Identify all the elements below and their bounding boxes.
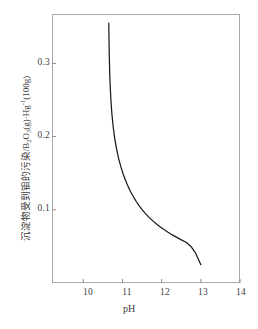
y-axis-title-b-sub: 2 bbox=[25, 139, 32, 142]
y-axis-title-o-sub: 3 bbox=[25, 130, 32, 133]
y-axis-title-cjk: 沉淀物受到钼的污染 bbox=[20, 151, 31, 241]
y-axis-title-hg: Hg bbox=[21, 105, 31, 116]
x-tick-label: 14 bbox=[229, 287, 253, 298]
y-axis-title: 沉淀物受到钼的污染/B2O3(g)·Hg-1(100g) bbox=[17, 29, 34, 289]
y-axis-title-dot: · bbox=[21, 116, 31, 119]
x-axis-ticks: 10 11 12 13 14 bbox=[0, 0, 258, 329]
x-tick-label: 12 bbox=[153, 287, 177, 298]
x-tick-label: 13 bbox=[191, 287, 215, 298]
x-tick-label: 11 bbox=[115, 287, 139, 298]
y-axis-title-o: O bbox=[21, 133, 31, 140]
y-axis-title-hg-sup: -1 bbox=[19, 100, 26, 105]
y-axis-title-100g: (100g) bbox=[21, 76, 31, 100]
chart-figure: 0.3 0.2 0.1 10 11 12 13 14 pH 沉淀物受到钼的污染/… bbox=[0, 0, 258, 329]
x-axis-title: pH bbox=[0, 303, 258, 315]
y-axis-title-g: (g) bbox=[21, 119, 31, 130]
y-axis-title-b: B bbox=[21, 143, 31, 149]
x-tick-label: 10 bbox=[76, 287, 100, 298]
y-axis-title-sep: / bbox=[21, 149, 31, 152]
